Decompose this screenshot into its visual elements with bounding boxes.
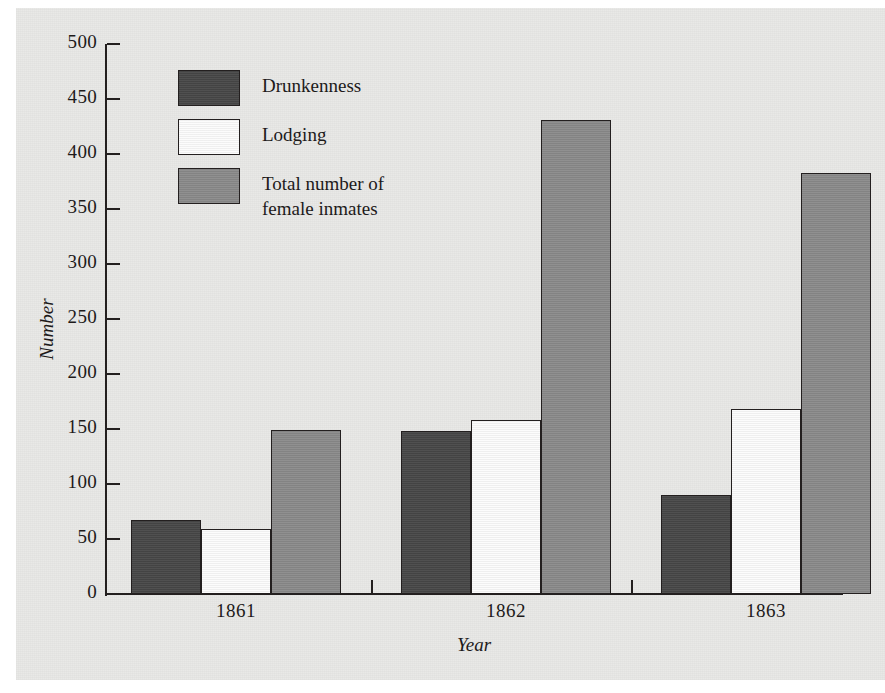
bar-1861-total-number-of (271, 430, 341, 594)
legend-item-total-number-of: Total number of female inmates (178, 168, 498, 221)
legend-swatch-texture (179, 71, 239, 105)
legend-swatch-texture (179, 120, 239, 154)
bar-texture (402, 432, 470, 593)
bar-texture (472, 421, 540, 593)
bar-1862-drunkenness (401, 431, 471, 594)
y-axis-title: Number (36, 269, 58, 389)
bar-texture (542, 121, 610, 593)
bar-texture (132, 521, 200, 593)
legend-item-lodging: Lodging (178, 119, 498, 155)
legend-label: Drunkenness (262, 70, 361, 98)
legend-swatch (178, 70, 240, 106)
bar-chart-plot: 500450400350300250200150100500 186118621… (0, 0, 885, 693)
chart-legend: DrunkennessLodgingTotal number of female… (178, 70, 498, 234)
x-tick-label-1861: 1861 (156, 600, 316, 622)
figure-container: 500450400350300250200150100500 186118621… (0, 0, 885, 693)
bar-1863-total-number-of (801, 173, 871, 594)
bar-texture (272, 431, 340, 593)
bar-1862-lodging (471, 420, 541, 594)
legend-swatch (178, 119, 240, 155)
legend-label: Total number of female inmates (262, 168, 384, 221)
legend-label: Lodging (262, 119, 326, 147)
x-axis-title: Year (105, 634, 843, 656)
legend-swatch (178, 168, 240, 204)
bar-texture (732, 410, 800, 593)
bar-texture (662, 496, 730, 593)
x-tick-label-1862: 1862 (426, 600, 586, 622)
bar-1861-drunkenness (131, 520, 201, 594)
x-tick-label-1863: 1863 (686, 600, 846, 622)
legend-swatch-texture (179, 169, 239, 203)
bar-1861-lodging (201, 529, 271, 594)
bar-1863-drunkenness (661, 495, 731, 594)
bar-1862-total-number-of (541, 120, 611, 594)
bar-1863-lodging (731, 409, 801, 594)
bar-texture (202, 530, 270, 593)
legend-item-drunkenness: Drunkenness (178, 70, 498, 106)
bar-texture (802, 174, 870, 593)
